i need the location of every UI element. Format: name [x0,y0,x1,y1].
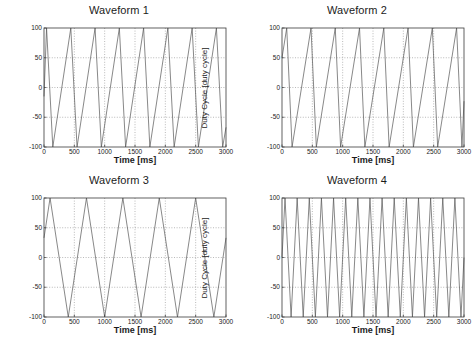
x-tick-label: 1500 [358,148,388,155]
y-tick-label: 100 [16,195,42,201]
x-tick-label: 500 [297,148,327,155]
x-tick-labels: 050010001500200025003000 [238,148,476,158]
x-tick-label: 500 [297,318,327,325]
x-tick-label: 0 [267,148,297,155]
y-tick-label: 50 [16,55,42,61]
y-tick-label: 50 [16,225,42,231]
y-axis-label: Duty Cycle [duty cycle] [199,198,211,318]
x-tick-label: 2000 [388,148,418,155]
y-tick-label: -50 [16,114,42,120]
x-tick-label: 2500 [181,318,211,325]
y-tick-labels: -100-50050100 [14,0,42,170]
x-tick-label: 0 [29,148,59,155]
y-axis-label: Duty Cycle [duty cycle] [199,28,211,148]
chart-panel: Waveform 4Duty Cycle [duty cycle]Time [m… [238,170,476,340]
y-tick-label: -50 [254,114,280,120]
x-tick-label: 3000 [211,318,241,325]
y-tick-label: -50 [254,284,280,290]
x-tick-label: 500 [59,148,89,155]
y-tick-label: -50 [16,284,42,290]
x-tick-label: 0 [267,318,297,325]
y-tick-labels: -100-50050100 [252,0,280,170]
y-tick-label: 0 [16,255,42,261]
x-tick-label: 2000 [150,148,180,155]
x-tick-label: 500 [59,318,89,325]
x-tick-label: 1000 [90,318,120,325]
x-tick-labels: 050010001500200025003000 [0,148,238,158]
x-tick-label: 1000 [328,318,358,325]
x-tick-label: 1000 [328,148,358,155]
y-tick-label: 0 [254,255,280,261]
y-tick-label: 100 [254,25,280,31]
y-tick-label: 100 [254,195,280,201]
y-tick-label: 0 [16,85,42,91]
x-tick-label: 0 [29,318,59,325]
y-tick-label: 0 [254,85,280,91]
y-tick-labels: -100-50050100 [14,170,42,340]
x-tick-labels: 050010001500200025003000 [0,318,238,328]
x-tick-label: 3000 [449,148,476,155]
x-tick-labels: 050010001500200025003000 [238,318,476,328]
x-tick-label: 2000 [150,318,180,325]
x-tick-label: 2000 [388,318,418,325]
waveform-figure-grid: Waveform 1Duty Cycle [duty cycle]Time [m… [0,0,476,340]
x-tick-label: 3000 [449,318,476,325]
x-tick-label: 3000 [211,148,241,155]
y-tick-labels: -100-50050100 [252,170,280,340]
y-tick-label: 100 [16,25,42,31]
x-tick-label: 1500 [120,318,150,325]
x-tick-label: 2500 [419,318,449,325]
y-tick-label: 50 [254,225,280,231]
x-tick-label: 2500 [419,148,449,155]
chart-panel: Waveform 2Duty Cycle [duty cycle]Time [m… [238,0,476,170]
waveform-trace [282,198,464,317]
x-tick-label: 1500 [358,318,388,325]
x-tick-label: 1000 [90,148,120,155]
x-tick-label: 2500 [181,148,211,155]
y-tick-label: 50 [254,55,280,61]
x-tick-label: 1500 [120,148,150,155]
